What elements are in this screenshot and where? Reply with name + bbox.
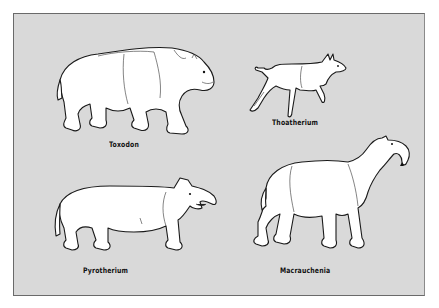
thoatherium-figure bbox=[242, 50, 352, 120]
toxodon-illustration bbox=[54, 42, 224, 142]
illustration-panel: Toxodon Thoatherium Pyrotherium bbox=[13, 13, 425, 296]
pyrotherium-illustration bbox=[50, 174, 222, 264]
toxodon-label: Toxodon bbox=[109, 140, 139, 149]
pyrotherium-label: Pyrotherium bbox=[83, 266, 128, 275]
macrauchenia-illustration bbox=[252, 134, 412, 262]
toxodon-figure bbox=[54, 42, 224, 142]
pyrotherium-figure bbox=[50, 174, 222, 264]
macrauchenia-label: Macrauchenia bbox=[280, 266, 330, 275]
thoatherium-label: Thoatherium bbox=[272, 118, 318, 127]
macrauchenia-figure bbox=[252, 134, 412, 262]
thoatherium-illustration bbox=[242, 50, 352, 120]
